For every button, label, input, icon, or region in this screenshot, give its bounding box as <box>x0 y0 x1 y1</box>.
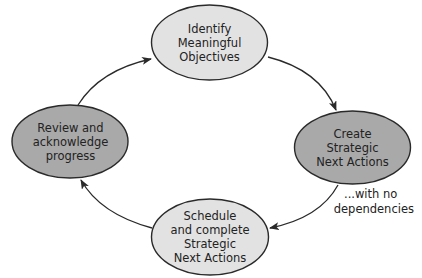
node-schedule-label: Schedule and complete Strategic Next Act… <box>152 200 268 274</box>
node-create-line-1: Create <box>333 127 371 141</box>
node-identify-line-3: Objectives <box>179 50 240 64</box>
node-review-line-1: Review and <box>37 121 103 135</box>
annotation-line-2: dependencies <box>328 202 414 217</box>
node-create-line-3: Next Actions <box>316 155 388 169</box>
node-identify-line-2: Meaningful <box>178 36 242 50</box>
node-schedule-line-3: Strategic <box>184 237 236 251</box>
annotation-line-1: ...with no <box>328 187 414 202</box>
arrow-schedule-to-review <box>81 180 152 228</box>
node-schedule-line-2: and complete <box>170 223 249 237</box>
node-review-label: Review and acknowledge progress <box>13 106 128 178</box>
node-create-line-2: Strategic <box>327 141 379 155</box>
arrow-identify-to-create <box>268 57 336 110</box>
node-create-label: Create Strategic Next Actions <box>295 112 410 184</box>
arrow-review-to-identify <box>78 59 151 105</box>
node-identify-line-1: Identify <box>188 22 231 36</box>
node-schedule-line-4: Next Actions <box>174 251 246 265</box>
dependencies-annotation: ...with no dependencies <box>328 187 414 217</box>
node-review-line-2: acknowledge <box>33 135 109 149</box>
node-review-line-3: progress <box>46 149 96 163</box>
node-identify-label: Identify Meaningful Objectives <box>152 6 267 79</box>
node-schedule-line-1: Schedule <box>184 209 237 223</box>
